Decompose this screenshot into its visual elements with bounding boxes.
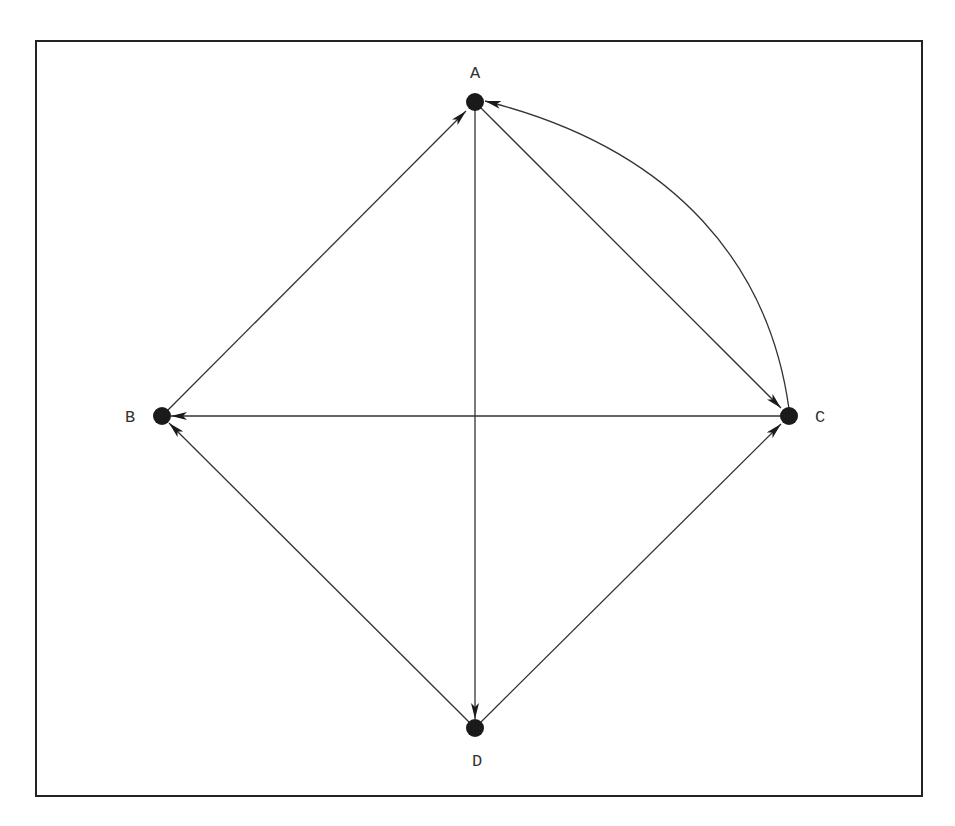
node-a <box>466 93 484 111</box>
node-label-b: B <box>125 408 135 427</box>
node-label-d: D <box>472 752 482 771</box>
edge-a-to-c <box>481 108 781 408</box>
edge-c-to-a-curved <box>485 101 789 409</box>
edge-d-to-c <box>481 424 781 722</box>
node-label-a: A <box>470 64 481 83</box>
edges-group <box>167 101 789 722</box>
node-d <box>466 719 484 737</box>
node-c <box>780 407 798 425</box>
edge-d-to-b <box>169 423 469 722</box>
edge-b-to-a <box>167 111 466 411</box>
graph-canvas: A B C D <box>0 0 955 826</box>
node-label-c: C <box>815 408 825 427</box>
node-b <box>153 407 171 425</box>
